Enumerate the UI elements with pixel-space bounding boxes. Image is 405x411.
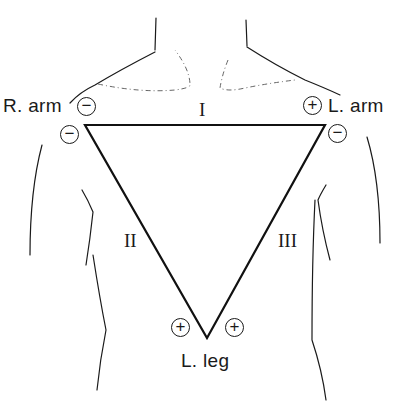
neck-left-line (155, 18, 156, 50)
right-arm-label: R. arm (3, 96, 62, 115)
right-torso-side (93, 255, 106, 390)
right-outer-arm-line (30, 145, 42, 255)
pole-sign: − (333, 124, 343, 141)
left-outer-arm-line (367, 137, 380, 243)
lead-2-label: II (124, 231, 137, 250)
left-torso-side (312, 200, 326, 400)
left-arm-label: L. arm (328, 96, 384, 115)
plus-icon-lead2-left-leg: + (171, 318, 190, 337)
neck-right-line (246, 20, 247, 46)
left-armpit-line (318, 185, 330, 260)
pole-sign: + (308, 96, 318, 113)
pole-sign: + (230, 318, 240, 335)
lead-3-label: III (278, 231, 297, 250)
minus-icon-lead3-left-arm: − (328, 124, 347, 143)
einthoven-triangle-diagram: R. arm L. arm L. leg I II III − − + − + … (0, 0, 405, 411)
right-armpit-line (82, 190, 93, 265)
lead-1-label: I (199, 100, 205, 119)
minus-icon-lead2-right-arm: − (60, 125, 79, 144)
right-clavicle-contour (98, 50, 190, 91)
pole-sign: + (176, 318, 186, 335)
left-shoulder-line (247, 47, 340, 95)
plus-icon-lead1-left-arm: + (303, 96, 322, 115)
minus-icon-lead1-right-arm: − (77, 97, 96, 116)
pole-sign: − (65, 125, 75, 142)
left-leg-label: L. leg (181, 351, 229, 370)
left-clavicle-contour (220, 60, 295, 90)
plus-icon-lead3-left-leg: + (225, 318, 244, 337)
pole-sign: − (82, 97, 92, 114)
